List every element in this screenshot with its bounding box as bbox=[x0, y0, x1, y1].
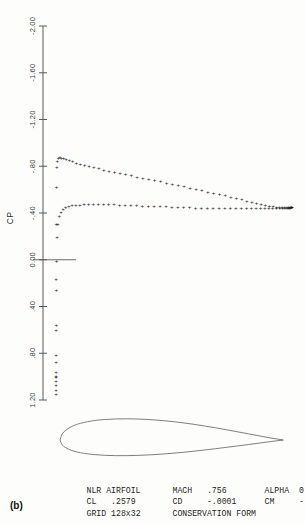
cp-data-point: + bbox=[217, 204, 221, 211]
grid-value: 128x32 bbox=[111, 508, 140, 520]
cp-data-point: + bbox=[96, 200, 100, 207]
case-name-label: NLR AIRFOIL bbox=[86, 485, 140, 497]
cp-data-point: + bbox=[223, 204, 227, 211]
cp-data-point: + bbox=[54, 321, 58, 328]
cp-data-point: + bbox=[87, 162, 91, 169]
y-axis-tick-label: -.80 bbox=[28, 159, 37, 173]
cp-data-point: + bbox=[194, 185, 198, 192]
cp-data-point: + bbox=[82, 200, 86, 207]
cp-data-point: + bbox=[170, 203, 174, 210]
cp-data-point: + bbox=[102, 166, 106, 173]
y-axis-title: CP bbox=[5, 212, 15, 225]
cp-data-point: + bbox=[200, 204, 204, 211]
cp-data-point: + bbox=[135, 173, 139, 180]
cm-value: - .0051 bbox=[299, 496, 305, 508]
cp-data-point: + bbox=[118, 169, 122, 176]
airfoil-outline bbox=[60, 419, 283, 456]
cp-data-point: + bbox=[123, 201, 127, 208]
cp-distribution-figure: -2.00-1.60-1.20-.80-.400.00.40.801.20 ++… bbox=[0, 0, 305, 524]
plot-canvas: -2.00-1.60-1.20-.80-.400.00.40.801.20 ++… bbox=[0, 0, 305, 524]
cd-label: CD bbox=[172, 496, 182, 508]
grid-label: GRID bbox=[86, 508, 106, 520]
cp-data-point: + bbox=[290, 203, 294, 210]
cp-data-point: + bbox=[176, 203, 180, 210]
cp-data-point: + bbox=[182, 203, 186, 210]
mach-value: .756 bbox=[207, 485, 227, 497]
cd-value: -.0001 bbox=[207, 496, 236, 508]
cp-data-point: + bbox=[97, 164, 101, 171]
cp-data-point: + bbox=[129, 201, 133, 208]
mach-label: MACH bbox=[172, 485, 192, 497]
cp-data-point: + bbox=[92, 163, 96, 170]
cp-data-point: + bbox=[107, 167, 111, 174]
alpha-label: ALPHA bbox=[264, 485, 289, 497]
cp-data-point: + bbox=[205, 204, 209, 211]
cp-data-point: + bbox=[55, 183, 59, 190]
cp-data-point: + bbox=[218, 190, 222, 197]
cp-data-point: + bbox=[176, 181, 180, 188]
cm-label: CM bbox=[264, 496, 274, 508]
cp-data-point: + bbox=[118, 201, 122, 208]
cp-data-point: + bbox=[159, 177, 163, 184]
cp-data-point: + bbox=[182, 182, 186, 189]
panel-label: (b) bbox=[10, 500, 23, 511]
cl-value: .2579 bbox=[111, 496, 136, 508]
cp-data-point: + bbox=[245, 204, 249, 211]
cp-data-point: + bbox=[55, 163, 59, 170]
cp-data-point: + bbox=[147, 175, 151, 182]
y-axis-tick-label: .80 bbox=[28, 348, 37, 359]
cp-data-point: + bbox=[54, 351, 58, 358]
cp-data-point: + bbox=[250, 204, 254, 211]
cp-data-point: + bbox=[234, 204, 238, 211]
cp-data-point: + bbox=[55, 257, 59, 264]
cp-data-point: + bbox=[124, 170, 128, 177]
cp-data-point: + bbox=[54, 275, 58, 282]
cp-data-point: + bbox=[188, 203, 192, 210]
cp-data-point: + bbox=[135, 201, 139, 208]
cp-data-markers-group: ++++++++++++++++++++++++++++++++++++++++… bbox=[54, 153, 294, 396]
cp-data-point: + bbox=[229, 204, 233, 211]
cp-data-point: + bbox=[129, 171, 133, 178]
y-axis-tick-label: -.40 bbox=[28, 206, 37, 220]
cp-data-point: + bbox=[194, 204, 198, 211]
formulation-label: CONSERVATION FORM bbox=[172, 508, 256, 520]
cp-data-point: + bbox=[188, 184, 192, 191]
cp-data-point: + bbox=[245, 197, 249, 204]
cp-data-point: + bbox=[239, 204, 243, 211]
cp-data-point: + bbox=[54, 368, 58, 375]
cp-data-point: + bbox=[55, 286, 59, 293]
cp-data-point: + bbox=[164, 202, 168, 209]
cp-data-point: + bbox=[153, 176, 157, 183]
alpha-value: 0.000 bbox=[299, 485, 305, 497]
cp-data-point: + bbox=[107, 200, 111, 207]
y-axis-tick-label: -1.20 bbox=[28, 110, 37, 128]
cp-data-point: + bbox=[211, 204, 215, 211]
y-axis-tick-label: -2.00 bbox=[28, 17, 37, 35]
cp-data-point: + bbox=[55, 233, 59, 240]
cp-data-point: + bbox=[141, 202, 145, 209]
y-axis-group: -2.00-1.60-1.20-.80-.400.00.40.801.20 bbox=[28, 17, 47, 408]
y-axis-tick-label: -1.60 bbox=[28, 64, 37, 82]
cp-data-point: + bbox=[54, 358, 58, 365]
cp-data-point: + bbox=[83, 161, 87, 168]
cp-data-point: + bbox=[171, 180, 175, 187]
cp-data-point: + bbox=[223, 191, 227, 198]
cp-data-point: + bbox=[165, 179, 169, 186]
cp-data-point: + bbox=[206, 188, 210, 195]
cp-data-point: + bbox=[212, 189, 216, 196]
cp-data-point: + bbox=[102, 200, 106, 207]
cp-data-point: + bbox=[146, 202, 150, 209]
cp-data-point: + bbox=[240, 195, 244, 202]
cp-data-point: + bbox=[112, 200, 116, 207]
cp-data-point: + bbox=[113, 168, 117, 175]
y-axis-title-group: CP bbox=[5, 212, 15, 225]
cp-data-point: + bbox=[234, 194, 238, 201]
cp-data-point: + bbox=[56, 220, 60, 227]
airfoil-profile-group bbox=[60, 419, 283, 456]
cp-data-point: + bbox=[158, 202, 162, 209]
y-axis-tick-label: 1.20 bbox=[28, 392, 37, 407]
cp-data-point: + bbox=[141, 174, 145, 181]
cp-data-point: + bbox=[200, 186, 204, 193]
y-axis-tick-label: .40 bbox=[28, 301, 37, 312]
parameter-table: NLR AIRFOILMACH .756ALPHA 0.000 CL .2579… bbox=[57, 473, 301, 508]
